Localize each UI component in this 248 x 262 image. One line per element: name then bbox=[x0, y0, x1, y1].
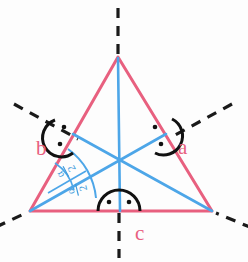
geometry-diagram: b a c α 2 α 2 bbox=[0, 0, 248, 262]
symmetry-axis-left-diagonal-outer bbox=[14, 104, 78, 139]
geometry-figure: b a c α 2 α 2 bbox=[0, 0, 248, 262]
angle-mark-dot-right-upper bbox=[153, 125, 158, 130]
symmetry-axis-left-diagonal-inner bbox=[0, 213, 26, 227]
vertex-label-b: b bbox=[36, 136, 47, 160]
bisector-from-apex bbox=[118, 58, 120, 211]
vertex-label-a: a bbox=[178, 135, 188, 159]
bisector-from-bottom-right bbox=[73, 134, 212, 211]
angle-mark-dot-bottom-right bbox=[127, 200, 132, 205]
angle-mark-dot-left-upper bbox=[62, 125, 67, 130]
half-angle-denominator-upper: 2 bbox=[65, 163, 78, 173]
angle-mark-arc-left bbox=[43, 120, 73, 157]
half-angle-numerator-upper: α bbox=[53, 169, 66, 180]
symmetry-axis-right-diagonal-inner bbox=[216, 213, 248, 228]
angle-mark-vertex-left bbox=[43, 120, 73, 157]
angle-mark-dot-right-lower bbox=[159, 142, 164, 147]
vertex-label-c: c bbox=[135, 221, 144, 245]
angle-mark-dot-left-lower bbox=[58, 142, 63, 147]
half-angle-denominator-lower: 2 bbox=[76, 184, 89, 192]
angle-mark-dot-bottom-left bbox=[107, 200, 112, 205]
symmetry-axes-group bbox=[0, 8, 248, 258]
